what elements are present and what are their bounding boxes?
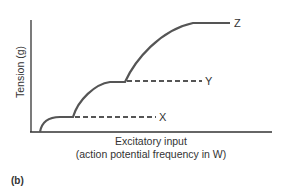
chart: X Y Z Tension (g) Excitatory input (acti…: [0, 0, 288, 186]
label-x: X: [159, 111, 167, 123]
tension-curve: [40, 23, 230, 132]
x-axis-sublabel: (action potential frequency in W): [76, 148, 227, 160]
panel-label: (b): [11, 175, 24, 186]
x-axis-label: Excitatory input: [115, 135, 187, 147]
y-axis-label: Tension (g): [14, 46, 26, 98]
label-y: Y: [205, 75, 213, 87]
label-z: Z: [234, 17, 241, 29]
